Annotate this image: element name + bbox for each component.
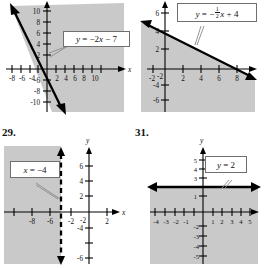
x-tick-label: -1: [183, 218, 189, 225]
problem-number-31: 31.: [135, 126, 149, 138]
y-tick-label: 2: [79, 193, 83, 201]
x-tick-label: 8: [235, 75, 239, 83]
x-tick-label: 6: [217, 75, 221, 83]
x-tick-label: 8: [82, 75, 86, 83]
y-tick-label: -3: [194, 233, 200, 240]
y-tick-label: -2: [157, 73, 163, 81]
x-tick-label: -2: [68, 218, 74, 226]
x-tick-label: 6: [73, 75, 77, 83]
x-tick-label: -8: [29, 218, 35, 226]
graph-svg-27: -8 -6 -4 2 4 6 8 10 10 8 6 4 2 -6 -8 -10…: [0, 0, 132, 115]
equation-callout-29: x = −4: [10, 161, 60, 178]
y-axis-label: y: [85, 136, 90, 145]
equation-text: x = −4: [23, 165, 46, 175]
y-axis-arrow-top: [44, 1, 50, 8]
y-tick-label: -4: [194, 243, 200, 250]
y-tick-label: 8: [36, 19, 40, 27]
graph-svg-29: -8 -6 -2 2 6 4 2 -2 -4 -6 x y: [0, 126, 132, 268]
y-tick-label: 1: [194, 193, 197, 200]
equation-callout-31: y = 2: [205, 156, 247, 173]
x-tick-label: 4: [199, 75, 203, 83]
y-tick-label: 2: [155, 46, 159, 54]
y-tick-label: -4: [77, 225, 83, 233]
y-axis-arrow-top: [162, 1, 168, 8]
graph-panel-28: -2 2 4 6 8 6 4 2 -2 -4 -6 y = −12x + 4: [133, 0, 265, 115]
y-tick-label: -6: [153, 97, 159, 105]
x-tick-label: 1: [211, 218, 214, 225]
y-tick-label: 6: [36, 30, 40, 38]
y-tick-label: 4: [194, 166, 198, 173]
y-tick-label: -4: [153, 82, 159, 90]
equation-callout-27: y = −2x − 7: [63, 31, 130, 47]
y-axis-label: y: [199, 136, 204, 145]
y-tick-label: -6: [34, 77, 40, 85]
y-axis-arrow-top: [200, 147, 206, 154]
problem-number-29: 29.: [2, 126, 16, 138]
x-tick-label: 4: [64, 75, 68, 83]
y-tick-label: 6: [155, 10, 159, 18]
equation-text: y = −12x + 4: [196, 6, 239, 20]
x-tick-label: 2: [220, 218, 223, 225]
x-tick-label: -4: [153, 218, 159, 225]
x-tick-label: -6: [19, 75, 25, 83]
y-axis-arrow-top: [86, 147, 92, 154]
x-axis-label: x: [121, 208, 126, 217]
shaded-region: [150, 186, 258, 264]
equation-callout-28: y = −12x + 4: [177, 3, 257, 22]
y-tick-label: 5: [194, 157, 198, 164]
x-tick-label: 10: [91, 75, 99, 83]
graph-panel-31: 31.: [133, 126, 265, 268]
x-axis-label: x: [127, 65, 132, 74]
x-tick-label: -2: [173, 218, 179, 225]
graph-panel-29: 29. -8: [0, 126, 132, 268]
x-axis-arrow: [249, 66, 257, 72]
y-tick-label: -2: [80, 217, 86, 225]
x-tick-label: -3: [163, 218, 169, 225]
y-tick-label: 4: [36, 41, 40, 49]
y-tick-label: 6: [79, 163, 83, 171]
graph-svg-31: -4 -3 -2 -1 1 2 3 4 5 5 4 3 1 -2 -3 -4 -…: [133, 126, 265, 268]
y-tick-label: 3: [194, 175, 198, 182]
equation-text: y = −2x − 7: [76, 34, 117, 44]
figure-page: -8 -6 -4 2 4 6 8 10 10 8 6 4 2 -6 -8 -10…: [0, 0, 265, 268]
x-tick-label: 2: [181, 75, 185, 83]
x-axis-arrow: [112, 209, 120, 215]
y-tick-label: -8: [34, 88, 40, 96]
x-tick-label: -8: [9, 75, 15, 83]
y-tick-label: -2: [194, 223, 200, 230]
shaded-region: [11, 3, 124, 112]
y-tick-label: -6: [77, 255, 83, 263]
y-tick-label: -5: [194, 253, 200, 260]
y-tick-label: -10: [30, 99, 40, 107]
y-tick-label: 10: [33, 8, 41, 16]
y-tick-label: 4: [79, 178, 83, 186]
x-tick-label: 2: [105, 218, 109, 226]
graph-panel-27: -8 -6 -4 2 4 6 8 10 10 8 6 4 2 -6 -8 -10…: [0, 0, 132, 115]
x-tick-label: 2: [55, 75, 59, 83]
x-tick-label: -6: [47, 218, 53, 226]
equation-text: y = 2: [217, 160, 235, 170]
